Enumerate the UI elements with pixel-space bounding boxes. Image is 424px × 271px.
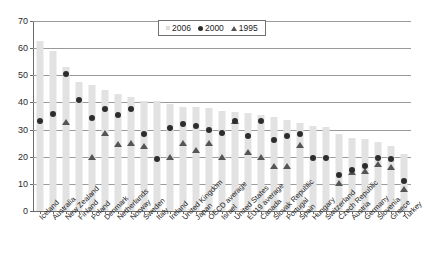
marker-2000 bbox=[50, 111, 56, 117]
marker-1995 bbox=[296, 142, 304, 148]
marker-2000 bbox=[284, 133, 290, 139]
chart-column bbox=[59, 21, 72, 211]
marker-2000 bbox=[271, 137, 277, 143]
chart-column bbox=[72, 21, 85, 211]
y-tick-label: 30 bbox=[2, 126, 28, 135]
bar-2006 bbox=[127, 97, 134, 211]
chart-column bbox=[398, 21, 411, 211]
bar-2006 bbox=[310, 126, 317, 212]
marker-2000 bbox=[141, 131, 147, 137]
chart-column bbox=[176, 21, 189, 211]
marker-2000 bbox=[310, 155, 316, 161]
marker-2000 bbox=[102, 106, 108, 112]
marker-1995 bbox=[283, 163, 291, 169]
marker-2000 bbox=[37, 118, 43, 124]
y-tick-label: 0 bbox=[2, 207, 28, 216]
legend-item: 2006 bbox=[166, 23, 191, 33]
marker-1995 bbox=[257, 154, 265, 160]
chart-column bbox=[189, 21, 202, 211]
marker-1995 bbox=[62, 119, 70, 125]
marker-2000 bbox=[167, 125, 173, 131]
chart-column bbox=[98, 21, 111, 211]
bar-swatch-icon bbox=[166, 26, 170, 30]
legend-item: 1995 bbox=[231, 23, 258, 33]
chart-column bbox=[281, 21, 294, 211]
marker-1995 bbox=[101, 130, 109, 136]
triangle-swatch-icon bbox=[231, 26, 237, 31]
marker-2000 bbox=[232, 118, 238, 124]
marker-2000 bbox=[154, 156, 160, 162]
marker-1995 bbox=[88, 154, 96, 160]
chart-column bbox=[33, 21, 46, 211]
chart-column bbox=[46, 21, 59, 211]
y-tick-mark bbox=[30, 211, 33, 212]
marker-1995 bbox=[114, 141, 122, 147]
chart-column bbox=[85, 21, 98, 211]
marker-1995 bbox=[335, 180, 343, 186]
marker-2000 bbox=[219, 130, 225, 136]
circle-swatch-icon bbox=[198, 26, 203, 31]
chart-column bbox=[163, 21, 176, 211]
marker-2000 bbox=[115, 112, 121, 118]
y-tick-label: 70 bbox=[2, 17, 28, 26]
marker-1995 bbox=[127, 140, 135, 146]
marker-2000 bbox=[193, 123, 199, 129]
chart-column bbox=[111, 21, 124, 211]
y-tick-label: 60 bbox=[2, 44, 28, 53]
marker-2000 bbox=[76, 97, 82, 103]
bar-2006 bbox=[62, 67, 69, 211]
marker-1995 bbox=[270, 163, 278, 169]
marker-1995 bbox=[244, 149, 252, 155]
chart-column bbox=[255, 21, 268, 211]
marker-2000 bbox=[258, 118, 264, 124]
y-tick-label: 10 bbox=[2, 180, 28, 189]
marker-1995 bbox=[140, 143, 148, 149]
bar-2006 bbox=[36, 41, 43, 211]
chart-column bbox=[137, 21, 150, 211]
marker-2000 bbox=[128, 106, 134, 112]
marker-1995 bbox=[166, 154, 174, 160]
marker-1995 bbox=[192, 147, 200, 153]
chart-column bbox=[320, 21, 333, 211]
y-tick-label: 20 bbox=[2, 153, 28, 162]
marker-2000 bbox=[180, 121, 186, 127]
y-tick-label: 50 bbox=[2, 71, 28, 80]
chart-column bbox=[124, 21, 137, 211]
marker-1995 bbox=[387, 164, 395, 170]
legend-label: 2000 bbox=[205, 23, 224, 33]
y-tick-label: 40 bbox=[2, 98, 28, 107]
legend-label: 1995 bbox=[239, 23, 258, 33]
chart-legend: 200620001995 bbox=[158, 20, 266, 36]
legend-item: 2000 bbox=[198, 23, 224, 33]
chart-column bbox=[150, 21, 163, 211]
marker-1995 bbox=[205, 140, 213, 146]
legend-label: 2006 bbox=[172, 23, 191, 33]
marker-1995 bbox=[218, 154, 226, 160]
bar-2006 bbox=[49, 51, 56, 211]
chart-column bbox=[385, 21, 398, 211]
marker-2000 bbox=[89, 115, 95, 121]
chart-column bbox=[333, 21, 346, 211]
marker-1995 bbox=[374, 161, 382, 167]
marker-1995 bbox=[179, 140, 187, 146]
chart-column bbox=[346, 21, 359, 211]
marker-1995 bbox=[400, 186, 408, 192]
